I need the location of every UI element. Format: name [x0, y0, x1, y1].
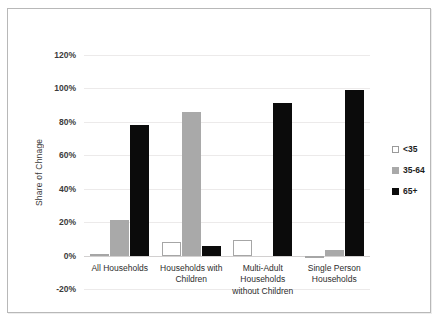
chart-frame: Share of Chnage 120%100%80%60%40%20%0%-2… — [7, 8, 431, 313]
bar-35[interactable] — [90, 254, 109, 256]
legend-swatch-icon — [392, 188, 399, 195]
y-axis-tick-label: 60% — [18, 151, 76, 160]
y-axis-tick-label: -20% — [18, 285, 76, 294]
y-axis-tick-label: 120% — [18, 51, 76, 60]
bar-3564[interactable] — [182, 112, 201, 256]
x-axis-category-label: Single PersonHouseholds — [285, 263, 385, 286]
y-axis-tick-label: 80% — [18, 118, 76, 127]
y-axis-title: Share of Chnage — [34, 127, 48, 217]
legend-swatch-icon — [392, 167, 399, 174]
chart-legend: <3535-6465+ — [392, 144, 446, 207]
category-label-line: Single Person — [285, 263, 385, 275]
legend-item[interactable]: 35-64 — [392, 165, 446, 175]
bar-35[interactable] — [233, 240, 252, 256]
bar-65[interactable] — [345, 90, 364, 255]
legend-label: 35-64 — [403, 165, 425, 175]
bar-group — [156, 55, 228, 289]
bar-group — [299, 55, 371, 289]
bar-65[interactable] — [273, 103, 292, 255]
bar-group — [84, 55, 156, 289]
bar-3564[interactable] — [325, 250, 344, 256]
bar-35[interactable] — [305, 256, 324, 259]
bar-3564[interactable] — [110, 220, 129, 255]
legend-item[interactable]: 65+ — [392, 186, 446, 196]
y-axis-tick-label: 20% — [18, 218, 76, 227]
y-axis-tick-label: 100% — [18, 84, 76, 93]
bar-group — [227, 55, 299, 289]
category-label-line: Households — [285, 274, 385, 286]
category-label-line: without Children — [213, 286, 313, 298]
legend-swatch-icon — [392, 146, 399, 153]
legend-item[interactable]: <35 — [392, 144, 446, 154]
bar-65[interactable] — [130, 125, 149, 255]
bar-65[interactable] — [202, 246, 221, 256]
y-axis-tick-label: 40% — [18, 185, 76, 194]
bar-35[interactable] — [162, 242, 181, 255]
legend-label: <35 — [403, 144, 417, 154]
legend-label: 65+ — [403, 186, 417, 196]
plot-area — [84, 55, 370, 289]
y-axis-tick-label: 0% — [18, 252, 76, 261]
